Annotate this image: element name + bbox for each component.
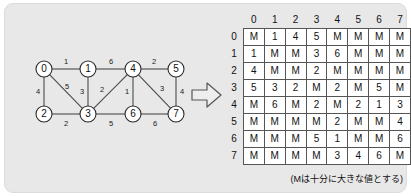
matrix-row-header-2: 2 (228, 62, 243, 79)
graph-canvas (14, 40, 199, 150)
matrix-cell-7-6: 6 (369, 147, 390, 164)
matrix-cell-4-1: 6 (264, 96, 285, 113)
matrix-cell-2-6: M (369, 62, 390, 79)
edge-weight-1-3: 3 (80, 87, 84, 96)
matrix-cell-2-4: M (327, 62, 348, 79)
matrix-cell-2-5: M (348, 62, 369, 79)
matrix-cell-4-2: M (285, 96, 306, 113)
matrix-cell-5-0: M (243, 113, 264, 130)
edge-weight-3-6: 5 (109, 119, 113, 128)
matrix-cell-5-5: M (348, 113, 369, 130)
matrix-cell-6-6: M (369, 130, 390, 147)
adjacency-matrix-table: 01234567 0M145MMMM11MM36MMM24MM2MMMM3532… (228, 12, 411, 165)
matrix-cell-5-4: 2 (327, 113, 348, 130)
matrix-cell-6-2: M (285, 130, 306, 147)
matrix-row-header-7: 7 (228, 147, 243, 164)
edge-weight-1-4: 6 (109, 57, 113, 66)
graph-node-label-3: 3 (80, 106, 96, 122)
matrix-row-header-5: 5 (228, 113, 243, 130)
figure-caption: (Mは十分に大きな値とする) (228, 172, 403, 185)
matrix-cell-4-4: M (327, 96, 348, 113)
matrix-cell-5-2: M (285, 113, 306, 130)
matrix-col-header-3: 3 (306, 12, 327, 28)
matrix-row: 24MM2MMMM (228, 62, 411, 79)
matrix-row: 5MMMM2MM4 (228, 113, 411, 130)
matrix-cell-3-0: 5 (243, 79, 264, 96)
matrix-cell-5-1: M (264, 113, 285, 130)
diagram-stage: 012345671453622521346 01234567 0M145MMMM… (0, 0, 411, 196)
matrix-row: 0M145MMMM (228, 28, 411, 45)
matrix-cell-7-7: M (390, 147, 411, 164)
matrix-row: 7MMMM346M (228, 147, 411, 164)
graph-node-label-5: 5 (168, 61, 184, 77)
matrix-cell-0-5: M (348, 28, 369, 45)
matrix-col-header-1: 1 (264, 12, 285, 28)
matrix-body: 0M145MMMM11MM36MMM24MM2MMMM3532M2M5M4M6M… (228, 28, 411, 164)
matrix-cell-0-3: 5 (306, 28, 327, 45)
edge-weight-6-7: 6 (153, 119, 157, 128)
matrix-cell-0-2: 4 (285, 28, 306, 45)
graph-node-label-1: 1 (80, 61, 96, 77)
matrix-cell-6-1: M (264, 130, 285, 147)
matrix-cell-0-0: M (243, 28, 264, 45)
matrix-cell-3-2: 2 (285, 79, 306, 96)
edge-weight-4-5: 2 (152, 57, 156, 66)
matrix-cell-1-5: M (348, 45, 369, 62)
graph-node-label-0: 0 (36, 61, 52, 77)
matrix-cell-6-5: M (348, 130, 369, 147)
matrix-row-header-6: 6 (228, 130, 243, 147)
matrix-cell-3-4: 2 (327, 79, 348, 96)
matrix-row-header-4: 4 (228, 96, 243, 113)
matrix-cell-6-3: 5 (306, 130, 327, 147)
matrix-row-header-0: 0 (228, 28, 243, 45)
matrix-row-header-3: 3 (228, 79, 243, 96)
adjacency-matrix: 01234567 0M145MMMM11MM36MMM24MM2MMMM3532… (228, 12, 411, 165)
edge-weight-5-7: 4 (180, 87, 184, 96)
matrix-cell-3-7: M (390, 79, 411, 96)
edge-weight-4-6: 1 (125, 87, 129, 96)
matrix-cell-4-0: M (243, 96, 264, 113)
matrix-cell-2-1: M (264, 62, 285, 79)
matrix-cell-3-3: M (306, 79, 327, 96)
matrix-cell-1-4: 6 (327, 45, 348, 62)
matrix-cell-2-0: 4 (243, 62, 264, 79)
matrix-cell-3-5: M (348, 79, 369, 96)
matrix-cell-4-7: 3 (390, 96, 411, 113)
matrix-cell-4-3: 2 (306, 96, 327, 113)
edge-weight-0-2: 4 (36, 87, 40, 96)
matrix-cell-1-0: 1 (243, 45, 264, 62)
matrix-cell-1-6: M (369, 45, 390, 62)
matrix-cell-1-1: M (264, 45, 285, 62)
matrix-cell-7-3: M (306, 147, 327, 164)
graph-node-label-2: 2 (36, 106, 52, 122)
matrix-col-header-2: 2 (285, 12, 306, 28)
matrix-row: 3532M2M5M (228, 79, 411, 96)
matrix-col-header-5: 5 (348, 12, 369, 28)
matrix-cell-6-7: 6 (390, 130, 411, 147)
matrix-cell-7-4: 3 (327, 147, 348, 164)
graph-node-label-4: 4 (125, 61, 141, 77)
matrix-cell-1-3: 3 (306, 45, 327, 62)
matrix-cell-6-4: 1 (327, 130, 348, 147)
matrix-row: 6MMM51MM6 (228, 130, 411, 147)
matrix-cell-2-3: 2 (306, 62, 327, 79)
matrix-cell-3-6: 5 (369, 79, 390, 96)
matrix-cell-2-2: M (285, 62, 306, 79)
graph-edge-0-3 (50, 75, 83, 109)
matrix-row: 4M6M2M213 (228, 96, 411, 113)
matrix-row-header-1: 1 (228, 45, 243, 62)
matrix-col-header-0: 0 (243, 12, 264, 28)
matrix-cell-0-7: M (390, 28, 411, 45)
matrix-cell-5-7: 4 (390, 113, 411, 130)
graph-edge-4-7 (139, 75, 171, 108)
matrix-cell-7-1: M (264, 147, 285, 164)
matrix-cell-4-5: 2 (348, 96, 369, 113)
graph-node-label-6: 6 (125, 106, 141, 122)
matrix-cell-2-7: M (390, 62, 411, 79)
matrix-cell-3-1: 3 (264, 79, 285, 96)
matrix-cell-7-0: M (243, 147, 264, 164)
graph-node-label-7: 7 (168, 106, 184, 122)
matrix-cell-5-6: M (369, 113, 390, 130)
edge-weight-0-3: 5 (65, 82, 69, 91)
matrix-cell-6-0: M (243, 130, 264, 147)
